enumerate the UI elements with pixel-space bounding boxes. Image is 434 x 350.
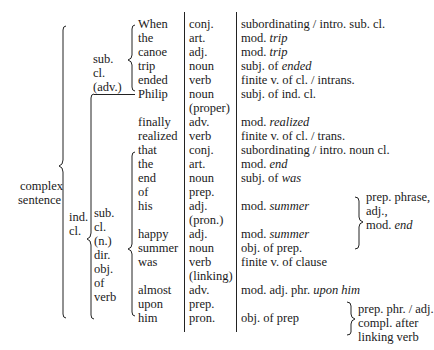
note-prep-phr-adj-2: linking verb (358, 330, 419, 344)
row-function: mod. trip (241, 31, 288, 45)
row-word: When (138, 17, 168, 31)
brace-sub-cl-n (127, 152, 137, 322)
row-pos: adj. (189, 199, 207, 213)
label-sentence: sentence (18, 193, 61, 207)
row-function: obj. of prep (241, 311, 299, 325)
row-function: mod. adj. phr. upon him (241, 283, 360, 297)
note-prep-phrase-2: mod. end (366, 218, 413, 232)
row-word: trip (138, 59, 155, 73)
row-word: almost (138, 283, 171, 297)
row-word: canoe (138, 45, 167, 59)
row-word: Philip (138, 87, 168, 101)
label-sub-n-4: obj. (94, 262, 113, 276)
label-sub-adv-0: sub. (93, 52, 114, 66)
row-word: him (138, 311, 157, 325)
row-function: finite v. of cl. / intrans. (241, 73, 355, 87)
row-pos: verb (189, 129, 211, 143)
row-pos: noun (189, 87, 214, 101)
row-pos: noun (189, 171, 214, 185)
row-pos: adv. (189, 115, 209, 129)
brace-prep-phrase (355, 197, 365, 253)
column-divider-2 (236, 12, 237, 332)
label-complex: complex (20, 179, 63, 193)
row-pos: noun (189, 241, 214, 255)
row-function: mod. summer (241, 199, 309, 213)
row-function: finite v. of clause (241, 255, 327, 269)
row-word: his (138, 199, 153, 213)
label-sub-adv-2: (adv.) (93, 80, 122, 94)
row-pos: art. (189, 157, 205, 171)
label-cl: cl. (69, 224, 81, 238)
label-sub-n-2: (n.) (94, 234, 112, 248)
column-divider-1 (184, 12, 185, 332)
note-prep-phrase-0: prep. phrase, (366, 190, 430, 204)
row-pos: (pron.) (189, 213, 223, 227)
row-function: mod. end (241, 157, 288, 171)
row-pos: prep. (189, 297, 214, 311)
row-pos: adj. (189, 45, 207, 59)
note-prep-phr-adj-0: prep. phr. / adj. (358, 302, 434, 316)
note-prep-phr-adj-1: compl. after (358, 316, 418, 330)
row-word: of (138, 185, 148, 199)
row-word: summer (138, 241, 178, 255)
row-word: ended (138, 73, 168, 87)
note-prep-phrase-1: adj., (366, 204, 388, 218)
label-sub-n-0: sub. (94, 206, 115, 220)
row-pos: prep. (189, 185, 214, 199)
row-function: mod. summer (241, 227, 309, 241)
row-word: upon (138, 297, 163, 311)
row-word: finally (138, 115, 171, 129)
row-function: mod. trip (241, 45, 288, 59)
row-function: finite v. of cl. / trans. (241, 129, 345, 143)
row-function: subordinating / intro. sub. cl. (241, 17, 385, 31)
row-word: end (138, 171, 156, 185)
brace-prep-phr-adj (347, 302, 357, 336)
row-pos: verb (189, 255, 211, 269)
row-pos: pron. (189, 311, 215, 325)
row-pos: verb (189, 73, 211, 87)
row-pos: conj. (189, 17, 214, 31)
brace-sub-cl-adv (127, 25, 137, 95)
row-word: realized (138, 129, 178, 143)
row-pos: conj. (189, 143, 214, 157)
row-pos: noun (189, 59, 214, 73)
row-pos: adj. (189, 227, 207, 241)
label-sub-n-6: verb (94, 290, 116, 304)
row-word: happy (138, 227, 169, 241)
row-word: that (138, 143, 157, 157)
row-word: the (138, 31, 153, 45)
row-pos: (proper) (189, 101, 230, 115)
row-function: subj. of was (241, 171, 301, 185)
row-pos: (linking) (189, 269, 233, 283)
row-function: obj. of prep. (241, 241, 302, 255)
label-sub-adv-1: cl. (93, 66, 105, 80)
brace-complex-sentence (58, 26, 68, 321)
row-word: the (138, 157, 153, 171)
row-word: was (138, 255, 157, 269)
label-sub-n-3: dir. (94, 248, 110, 262)
row-pos: adv. (189, 283, 209, 297)
row-function: subordinating / intro. noun cl. (241, 143, 390, 157)
row-function: mod. realized (241, 115, 309, 129)
row-function: subj. of ended (241, 59, 311, 73)
row-function: subj. of ind. cl. (241, 87, 316, 101)
brace-ind-cl (86, 93, 96, 323)
row-pos: art. (189, 31, 205, 45)
